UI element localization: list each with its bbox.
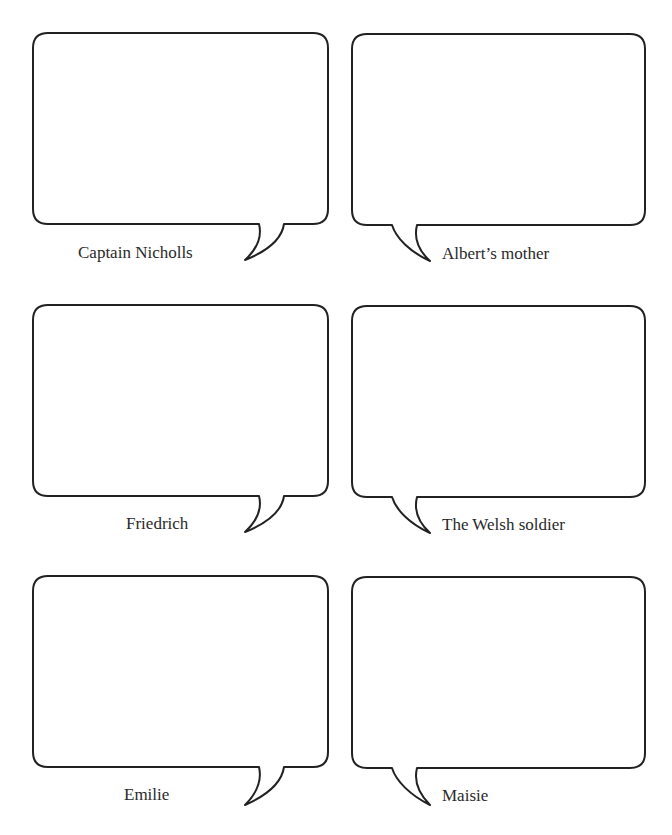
character-label-welsh-soldier: The Welsh soldier xyxy=(442,515,565,535)
character-label-maisie: Maisie xyxy=(442,786,488,806)
bubble-text-input-alberts-mother[interactable] xyxy=(364,46,634,213)
bubble-text-input-captain-nicholls[interactable] xyxy=(45,45,315,212)
bubble-text-input-maisie[interactable] xyxy=(364,589,634,756)
character-label-friedrich: Friedrich xyxy=(126,514,188,534)
character-label-alberts-mother: Albert’s mother xyxy=(442,244,549,264)
character-label-emilie: Emilie xyxy=(124,785,169,805)
character-label-captain-nicholls: Captain Nicholls xyxy=(78,243,193,263)
bubble-text-input-friedrich[interactable] xyxy=(45,317,315,484)
bubble-text-input-welsh-soldier[interactable] xyxy=(364,318,634,485)
bubble-text-input-emilie[interactable] xyxy=(45,588,315,755)
